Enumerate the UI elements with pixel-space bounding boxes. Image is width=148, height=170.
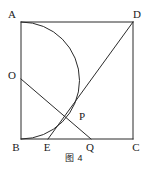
figure-caption: 图 4 [0,152,148,164]
geometry-canvas: A D B C O P E Q [0,0,148,170]
geometry-figure: A D B C O P E Q 图 4 [0,0,148,170]
segment-OQ [21,79,91,139]
label-A: A [8,8,16,20]
label-O: O [8,69,16,81]
label-D: D [133,8,141,20]
label-P: P [79,110,85,122]
segment-ED [48,22,133,139]
